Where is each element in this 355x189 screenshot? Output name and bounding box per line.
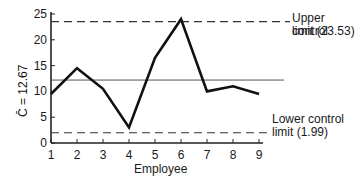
y-tick-label: 15 [34, 59, 48, 73]
y-tick-label: 5 [40, 110, 47, 124]
x-tick-label: 4 [126, 148, 133, 162]
x-tick-label: 6 [178, 148, 185, 162]
y-axis-title: C̄ = 12.67 [16, 65, 30, 117]
x-tick-label: 8 [230, 148, 237, 162]
y-tick-label: 10 [34, 84, 48, 98]
x-tick-label: 5 [152, 148, 159, 162]
y-tick-label: 20 [34, 33, 48, 47]
data-series [51, 19, 259, 127]
x-tick-label: 3 [100, 148, 107, 162]
y-tick-label: 0 [40, 136, 47, 150]
data-line [51, 19, 259, 127]
axes: 0510152025123456789 [34, 7, 263, 162]
x-axis-title: Employee [134, 163, 187, 176]
ucl-label-line2: limit (23.53) [292, 25, 355, 38]
x-tick-label: 7 [204, 148, 211, 162]
x-tick-label: 9 [256, 148, 263, 162]
y-tick-label: 25 [34, 7, 48, 21]
x-tick-label: 1 [48, 148, 55, 162]
x-tick-label: 2 [74, 148, 81, 162]
lcl-label-line2: limit (1.99) [272, 126, 328, 139]
